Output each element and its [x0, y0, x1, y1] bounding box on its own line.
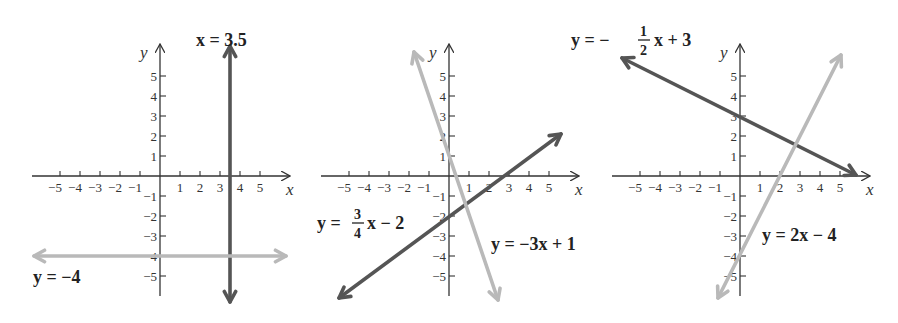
y-tick-label: 1 — [731, 149, 738, 164]
x-tick-label: 3 — [506, 180, 513, 195]
y-tick-label: −4 — [432, 249, 446, 264]
y-tick-label: 3 — [440, 109, 447, 124]
label-y-equals-3-4x-minus-2-rhs: x − 2 — [367, 213, 404, 233]
y-tick-label: 2 — [151, 129, 158, 144]
y-tick-label: −5 — [432, 269, 446, 284]
label-fraction-denominator-2: 2 — [640, 43, 647, 58]
y-tick-label: −3 — [432, 229, 446, 244]
label-y-equals-neg-half-x-plus-3-rhs: x + 3 — [654, 30, 691, 50]
x-tick-label: 5 — [257, 180, 264, 195]
x-tick-label: −5 — [337, 180, 351, 195]
x-tick-label: −3 — [88, 180, 102, 195]
x-tick-label: −4 — [648, 180, 662, 195]
y-tick-label: −2 — [723, 209, 737, 224]
label-y-equals-3-4x-minus-2-lhs: y = — [317, 213, 341, 233]
y-tick-label: −1 — [723, 189, 737, 204]
x-tick-label: −3 — [668, 180, 682, 195]
x-tick-label: −4 — [68, 180, 82, 195]
y-tick-label: −2 — [143, 209, 157, 224]
y-tick-label: 2 — [731, 129, 738, 144]
y-tick-label: 4 — [440, 89, 447, 104]
graph-line — [224, 46, 236, 302]
graph-panel-2: −5−4−3−2−112345−5−4−3−2−112345xy — [321, 43, 583, 300]
x-tick-label: 5 — [837, 180, 844, 195]
y-axis-label: y — [138, 43, 148, 62]
y-tick-label: −5 — [143, 269, 157, 284]
y-tick-label: 5 — [151, 69, 158, 84]
x-tick-label: 1 — [466, 180, 473, 195]
label-fraction-denominator-4: 4 — [354, 226, 361, 241]
graph-panel-3: −5−4−3−2−112345−5−4−3−2−112345xy — [612, 43, 874, 298]
x-tick-label: 4 — [237, 180, 244, 195]
x-tick-label: 1 — [757, 180, 764, 195]
y-tick-label: −3 — [143, 229, 157, 244]
y-tick-label: 3 — [151, 109, 158, 124]
x-tick-label: 3 — [217, 180, 224, 195]
x-tick-label: −4 — [357, 180, 371, 195]
x-tick-label: −1 — [417, 180, 431, 195]
label-x-equals-3.5: x = 3.5 — [196, 30, 247, 50]
x-tick-label: 1 — [177, 180, 184, 195]
y-tick-label: 5 — [731, 69, 738, 84]
x-tick-label: 4 — [817, 180, 824, 195]
x-axis-label: x — [285, 180, 294, 199]
y-tick-label: 4 — [151, 89, 158, 104]
x-axis-label: x — [574, 180, 583, 199]
label-y-equals-neg-half-x-plus-3-lhs: y = − — [571, 30, 610, 50]
line-segment — [622, 58, 856, 175]
y-tick-label: −1 — [432, 189, 446, 204]
label-y-equals-neg4: y = −4 — [33, 267, 81, 287]
x-axis-label: x — [865, 180, 874, 199]
graph-panel-1: −5−4−3−2−112345−5−4−3−2−112345xy — [32, 43, 294, 302]
label-fraction-numerator-3: 3 — [354, 207, 361, 222]
x-tick-label: −2 — [397, 180, 411, 195]
x-tick-label: 3 — [797, 180, 804, 195]
x-tick-label: −2 — [688, 180, 702, 195]
x-tick-label: 5 — [546, 180, 553, 195]
x-tick-label: −5 — [628, 180, 642, 195]
y-tick-label: −1 — [143, 189, 157, 204]
x-tick-label: −1 — [128, 180, 142, 195]
label-y-equals-neg3x-plus-1: y = −3x + 1 — [491, 234, 576, 254]
y-tick-label: 5 — [440, 69, 447, 84]
x-tick-label: −3 — [377, 180, 391, 195]
x-tick-label: −2 — [108, 180, 122, 195]
label-y-equals-2x-minus-4: y = 2x − 4 — [762, 225, 837, 245]
y-tick-label: 1 — [440, 149, 447, 164]
y-axis-label: y — [718, 43, 728, 62]
y-axis-label: y — [427, 43, 437, 62]
x-tick-label: −1 — [708, 180, 722, 195]
x-tick-label: 2 — [197, 180, 204, 195]
axes: −5−4−3−2−112345−5−4−3−2−112345xy — [32, 43, 294, 296]
axes: −5−4−3−2−112345−5−4−3−2−112345xy — [612, 43, 874, 296]
label-fraction-numerator-1: 1 — [640, 24, 647, 39]
graph-line — [622, 58, 856, 176]
x-tick-label: −5 — [48, 180, 62, 195]
linear-equations-figure: −5−4−3−2−112345−5−4−3−2−112345xy −5−4−3−… — [0, 0, 898, 323]
y-tick-label: 1 — [151, 149, 158, 164]
y-tick-label: −3 — [723, 229, 737, 244]
x-tick-label: 4 — [526, 180, 533, 195]
y-tick-label: 4 — [731, 89, 738, 104]
